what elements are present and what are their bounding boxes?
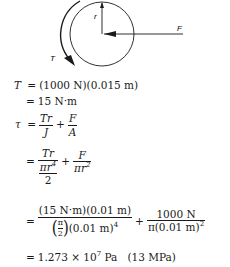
plus-sign: + <box>135 216 144 227</box>
axial-term: 1000 Nπ(0.01 m)2 <box>147 209 205 233</box>
equals-sign: = <box>27 80 36 91</box>
stress-symbol: τ <box>15 118 21 130</box>
exponent: 2 <box>86 161 90 169</box>
stress-unit: Pa <box>101 251 117 263</box>
denominator: A <box>68 126 78 138</box>
numerator: F <box>68 113 78 126</box>
pi-r: πr <box>74 162 86 174</box>
radius-label: r <box>94 12 97 21</box>
axial-term: FA <box>68 113 78 137</box>
torque-value: 15 N·m <box>38 95 77 107</box>
stress-formula-expanded: =Trπr42+Fπr2 <box>23 148 91 186</box>
axial-term: Fπr2 <box>73 150 91 174</box>
equals-sign: = <box>27 119 36 130</box>
open-paren: ( <box>52 219 58 238</box>
radius-value: (0.01 m) <box>69 221 114 233</box>
stress-result: =1.273 × 107 Pa(13 MPa) <box>23 252 176 263</box>
stress-formula: τ =TrJ+FA <box>15 113 77 137</box>
polar-moment-fraction: πr42 <box>39 162 57 186</box>
torsion-term: (15 N·m)(0.01 m)(π2)(0.01 m)4 <box>38 205 132 238</box>
torsion-term: TrJ <box>39 113 53 137</box>
numerator: 1000 N <box>147 209 205 222</box>
denominator: πr42 <box>38 161 58 186</box>
denominator: πr2 <box>73 162 91 174</box>
torque-arrowhead <box>64 55 75 66</box>
equals-sign: = <box>26 252 35 263</box>
equals-sign: = <box>26 96 35 107</box>
numerator: Tr <box>39 113 53 126</box>
torsion-term: Trπr42 <box>38 148 58 186</box>
force-label: F <box>177 24 183 33</box>
torque-result: =15 N·m <box>23 96 77 107</box>
torque-label: T <box>50 54 56 63</box>
torque-symbol: T <box>14 79 21 91</box>
stress-substitution: =(15 N·m)(0.01 m)(π2)(0.01 m)4+1000 Nπ(0… <box>23 205 205 238</box>
torque-expression: (1000 N)(0.015 m) <box>39 79 138 91</box>
radius-arrowhead <box>100 2 104 8</box>
stress-value-mpa: (13 MPa) <box>127 251 176 263</box>
exponent: 2 <box>200 220 204 228</box>
plus-sign: + <box>61 156 70 167</box>
denominator: (π2)(0.01 m)4 <box>38 218 132 238</box>
close-paren: ) <box>63 219 69 238</box>
equals-sign: = <box>26 216 35 227</box>
force-arrowhead <box>104 31 116 37</box>
pi-r: πr <box>40 161 52 173</box>
denominator: π(0.01 m)2 <box>147 221 205 233</box>
exponent: 4 <box>52 160 56 168</box>
numerator: πr4 <box>39 162 57 175</box>
exponent: 4 <box>114 220 118 228</box>
equals-sign: = <box>26 156 35 167</box>
denominator: J <box>39 126 53 138</box>
area-expression: π(0.01 m) <box>148 221 200 233</box>
torque-equation: T =(1000 N)(0.015 m) <box>14 80 138 91</box>
stress-value: 1.273 × 10 <box>38 251 97 263</box>
shaft-free-body-diagram: r F T <box>0 0 230 75</box>
denominator: 2 <box>39 174 57 186</box>
numerator: (15 N·m)(0.01 m) <box>38 205 132 218</box>
plus-sign: + <box>56 119 65 130</box>
